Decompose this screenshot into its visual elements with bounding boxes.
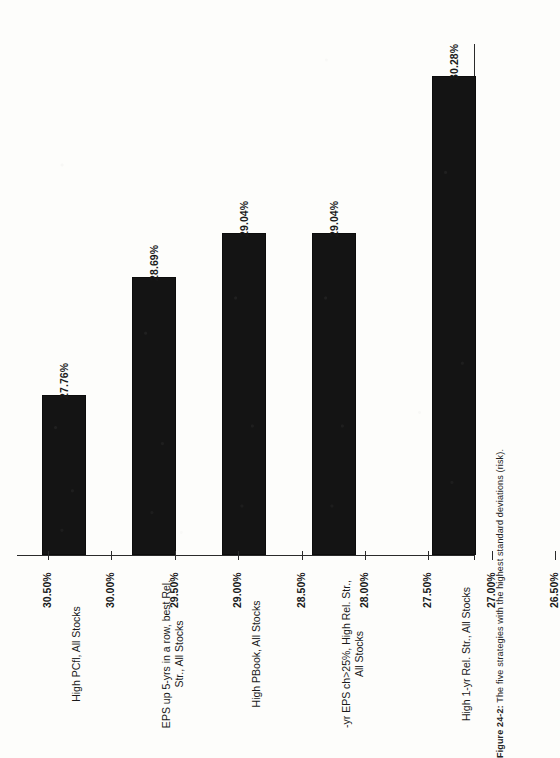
bar (42, 395, 86, 555)
category-label: High PCfl, All Stocks (70, 566, 83, 742)
value-axis-tick-label: 30.50% (41, 572, 53, 608)
value-axis-tick (302, 551, 303, 560)
bar (222, 233, 266, 555)
bar (132, 277, 176, 555)
value-axis-tick (555, 551, 556, 560)
value-axis-tick (238, 551, 239, 560)
bar-value-label: 27.76% (58, 363, 70, 399)
category-label: High PBook, All Stocks (250, 566, 263, 742)
value-axis-tick (111, 551, 112, 560)
figure-caption: Figure 24-2: The five strategies with th… (495, 449, 505, 758)
value-axis-tick (175, 551, 176, 560)
bar-value-label: 28.69% (148, 245, 160, 281)
figure-caption-text: The five strategies with the highest sta… (495, 449, 505, 703)
value-axis-tick-label: 26.50% (548, 572, 560, 608)
figure-caption-label: Figure 24-2: (495, 705, 505, 758)
value-axis-tick (428, 551, 429, 560)
value-axis-tick-label: 29.00% (231, 572, 243, 608)
bar-value-label: 29.04% (328, 201, 340, 237)
value-axis-tick-label: 27.50% (421, 572, 433, 608)
category-label: -yr EPS ch>25%, High Rel. Str., All Stoc… (340, 566, 366, 742)
value-axis-tick (492, 551, 493, 560)
value-axis-tick (48, 551, 49, 560)
bar-value-label: 30.28% (448, 44, 460, 80)
value-axis-tick-label: 28.50% (295, 572, 307, 608)
bar-value-label: 29.04% (238, 201, 250, 237)
value-axis-tick (365, 551, 366, 560)
value-axis-line (17, 555, 475, 556)
category-label: EPS up 5-yrs in a row, best Rel. Str., A… (160, 566, 186, 742)
value-axis-tick-label: 30.00% (104, 572, 116, 608)
bar (432, 76, 476, 555)
category-label: High 1-yr Rel. Str., All Stocks (460, 566, 473, 742)
bar (312, 233, 356, 555)
